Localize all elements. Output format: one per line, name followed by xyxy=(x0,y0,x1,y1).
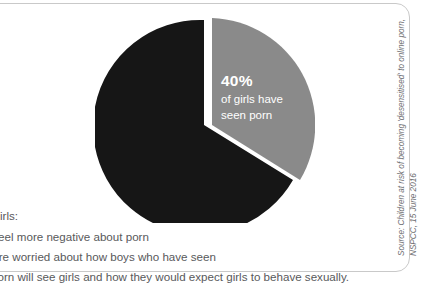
girls-heading: Girls: xyxy=(0,206,351,226)
girls-finding-1: Feel more negative about porn xyxy=(0,227,351,247)
infographic-card: 40% of girls have seen porn Girls: Feel … xyxy=(0,3,410,272)
slice-label-line-1: of girls have xyxy=(221,92,313,108)
source-credit-line-1: Source: Children at risk of becoming 'de… xyxy=(396,24,408,256)
source-credit-line-2: NSPCC, 15 June 2016 xyxy=(408,24,420,256)
girls-finding-3: porn will see girls and how they would e… xyxy=(0,267,351,287)
source-credit: Source: Children at risk of becoming 'de… xyxy=(396,24,423,256)
girls-findings-block: Girls: Feel more negative about porn Are… xyxy=(0,206,351,287)
slice-label-line-2: seen porn xyxy=(221,108,313,124)
slice-data-label: 40% of girls have seen porn xyxy=(221,70,313,124)
girls-finding-2: Are worried about how boys who have seen xyxy=(0,247,351,267)
slice-percent-value: 40% xyxy=(221,70,313,91)
